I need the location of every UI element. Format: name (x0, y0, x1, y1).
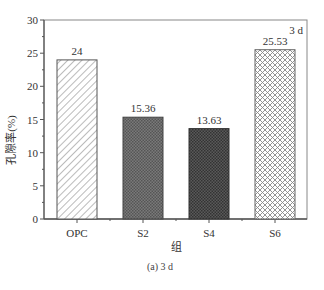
y-tick-25: 25 (27, 47, 39, 59)
y-tick-5: 5 (33, 180, 39, 192)
y-tick-10: 10 (27, 147, 39, 159)
chart-annotation: 3 d (289, 24, 303, 36)
value-label-s2: 15.36 (131, 102, 156, 114)
y-tick-20: 20 (27, 80, 39, 92)
bar-opc (57, 60, 97, 219)
x-tick-opc: OPC (66, 227, 87, 239)
value-label-opc: 24 (72, 45, 84, 57)
bar-s6 (255, 50, 295, 219)
x-tick-s2: S2 (137, 227, 149, 239)
x-tick-s4: S4 (203, 227, 215, 239)
y-tick-30: 30 (27, 14, 39, 26)
y-tick-labels: 0 5 10 15 20 25 30 (27, 14, 39, 225)
bar-s4 (189, 129, 229, 219)
y-tick-0: 0 (33, 213, 39, 225)
y-axis-title: 孔隙率(%) (4, 115, 18, 165)
x-tick-s6: S6 (269, 227, 281, 239)
value-label-s6: 25.53 (263, 35, 288, 47)
figure-caption: (a) 3 d (147, 261, 173, 273)
y-tick-15: 15 (27, 114, 39, 126)
bar-s2 (123, 117, 163, 219)
value-label-s4: 13.63 (197, 114, 222, 126)
bar-chart: 0 5 10 15 20 25 30 孔隙率(%) 24 15.36 13.63… (0, 0, 324, 290)
x-axis-title: 组 (171, 240, 182, 253)
